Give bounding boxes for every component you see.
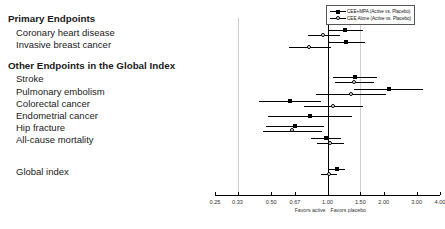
legend-label: CEE+MPA (Active vs. Placebo) [347,9,410,14]
endpoint-label: Endometrial cancer [16,111,98,121]
x-axis: 0.250.330.500.671.001.502.003.004.00Favo… [215,195,440,229]
axis-tick-label: 4.00 [435,199,445,205]
gridline [238,18,239,195]
axis-line [215,195,440,196]
axis-tick [417,192,418,195]
axis-tick-label: 0.67 [290,199,301,205]
point-marker-cee-mpa [387,87,391,91]
section-heading: Other Endpoints in the Global Index [8,61,175,71]
endpoint-label: Hip fracture [16,123,65,133]
axis-tick-label: 0.33 [232,199,243,205]
legend-label: CEE Alone (Active vs. Placebo) [347,16,411,21]
axis-tick [384,192,385,195]
endpoint-label: Coronary heart disease [16,28,115,38]
axis-tick-label: 2.00 [378,199,389,205]
endpoint-label: Invasive breast cancer [16,40,111,50]
endpoint-label: Colorectal cancer [16,99,90,109]
point-marker-cee-mpa [288,99,292,103]
endpoint-label: Global index [16,167,69,177]
endpoint-label-column: Primary EndpointsCoronary heart diseaseI… [0,0,215,229]
favors-active-label: Favors active [295,207,326,213]
point-marker-cee-alone [349,92,353,96]
legend-item: CEE Alone (Active vs. Placebo) [329,15,411,22]
plot-area [215,18,440,195]
point-marker-cee-mpa [308,114,312,118]
axis-tick-label: 1.00 [322,199,333,205]
legend-marker-open-circle-icon [329,15,347,22]
axis-tick-label: 3.00 [411,199,422,205]
point-marker-cee-alone [327,172,331,176]
point-marker-cee-mpa [324,136,328,140]
point-marker-cee-alone [307,45,311,49]
point-marker-cee-mpa [353,75,357,79]
endpoint-label: Stroke [16,74,43,84]
point-marker-cee-mpa [335,167,339,171]
axis-tick-label: 0.50 [266,199,277,205]
axis-tick [440,192,441,195]
point-marker-cee-mpa [343,28,347,32]
axis-tick [328,192,329,195]
axis-tick [271,192,272,195]
axis-tick [238,192,239,195]
axis-tick [360,192,361,195]
endpoint-label: Pulmonary embolism [16,87,105,97]
point-marker-cee-mpa [344,40,348,44]
section-heading: Primary Endpoints [8,14,95,24]
endpoint-label: All-cause mortality [16,135,94,145]
point-marker-cee-alone [352,80,356,84]
point-marker-cee-alone [321,33,325,37]
axis-tick [295,192,296,195]
axis-tick-label: 1.50 [355,199,366,205]
axis-tick [215,192,216,195]
legend: CEE+MPA (Active vs. Placebo)CEE Alone (A… [326,5,415,25]
favors-placebo-label: Favors placebo [331,207,366,213]
legend-marker-filled-square-icon [329,8,347,15]
legend-item: CEE+MPA (Active vs. Placebo) [329,8,411,15]
point-marker-cee-mpa [293,124,297,128]
axis-tick-label: 0.25 [210,199,221,205]
point-marker-cee-alone [328,141,332,145]
